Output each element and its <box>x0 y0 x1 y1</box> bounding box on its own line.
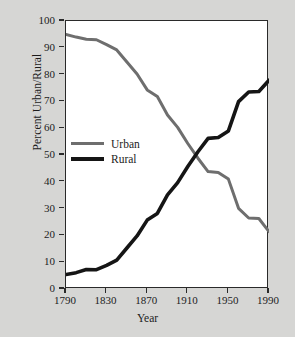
chart-figure: Percent Urban/Rural Year 010203040506070… <box>0 0 295 337</box>
y-tick-label: 20 <box>29 229 55 239</box>
y-tick-mark <box>59 287 64 288</box>
x-tick-label: 1990 <box>248 295 288 306</box>
x-tick-label: 1790 <box>45 295 85 306</box>
y-tick-mark <box>59 153 64 154</box>
y-tick-mark <box>59 180 64 181</box>
series-line-urban <box>66 34 269 231</box>
legend-label: Rural <box>111 153 137 165</box>
y-tick-label: 60 <box>29 122 55 132</box>
y-tick-label: 100 <box>29 15 55 25</box>
y-tick-mark <box>59 127 64 128</box>
legend-label: Urban <box>111 138 140 150</box>
y-tick-label: 30 <box>29 203 55 213</box>
y-tick-label: 80 <box>29 69 55 79</box>
x-axis-title: Year <box>0 312 295 324</box>
y-tick-label: 40 <box>29 176 55 186</box>
y-tick-mark <box>59 100 64 101</box>
x-tick-label: 1870 <box>126 295 166 306</box>
legend-item-urban: Urban <box>71 136 140 151</box>
legend-item-rural: Rural <box>71 151 140 166</box>
x-tick-label: 1910 <box>167 295 207 306</box>
series-line-rural <box>66 80 269 274</box>
y-tick-mark <box>59 207 64 208</box>
y-tick-mark <box>59 46 64 47</box>
y-tick-label: 10 <box>29 256 55 266</box>
y-tick-label: 90 <box>29 42 55 52</box>
x-tick-label: 1950 <box>207 295 247 306</box>
x-tick-label: 1830 <box>86 295 126 306</box>
legend-swatch-urban <box>71 142 104 145</box>
y-tick-mark <box>59 234 64 235</box>
y-tick-label: 70 <box>29 95 55 105</box>
y-tick-label: 50 <box>29 149 55 159</box>
chart-legend: UrbanRural <box>71 136 140 166</box>
y-tick-mark <box>59 73 64 74</box>
legend-swatch-rural <box>71 157 104 161</box>
y-tick-mark <box>59 261 64 262</box>
y-tick-label: 0 <box>29 283 55 293</box>
y-tick-mark <box>59 19 64 20</box>
